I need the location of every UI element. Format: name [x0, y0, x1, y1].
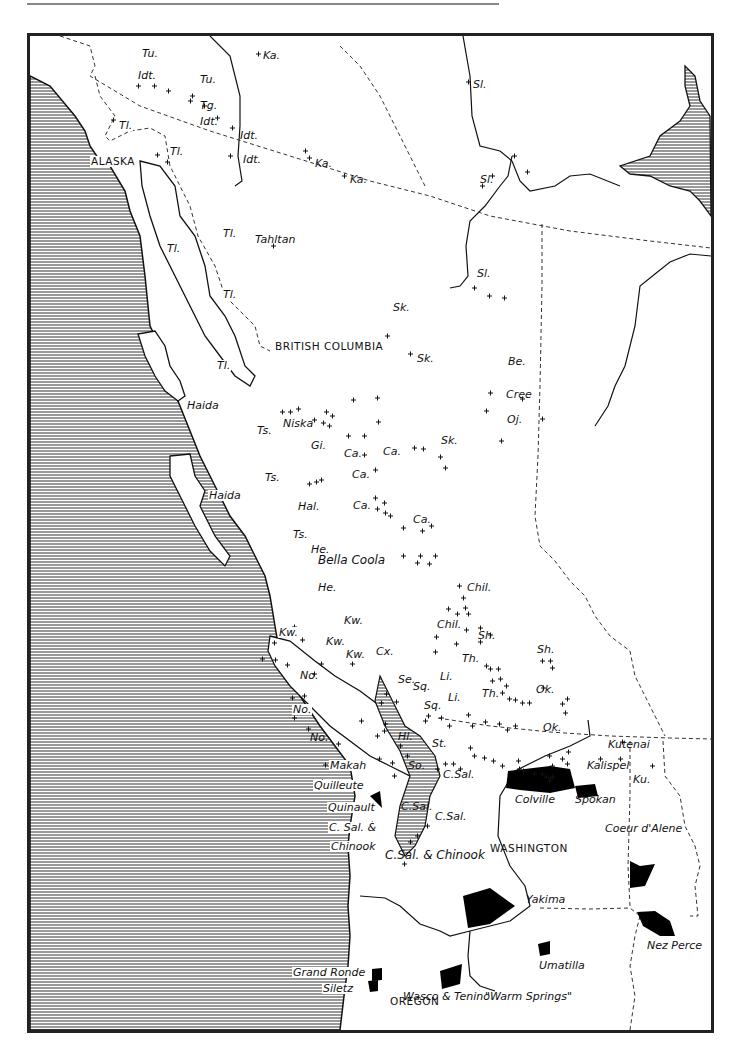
tribe-label: Sh.: [478, 630, 495, 641]
tribe-label: Sl.: [473, 79, 487, 90]
tribe-label: Ka.: [263, 50, 280, 61]
tribe-label: Niska: [283, 418, 313, 429]
reservation-umatilla: [538, 941, 550, 956]
tribe-label: Haida: [186, 400, 220, 411]
tribe-label: Sq.: [424, 700, 441, 711]
region-label-alaska: ALASKA: [90, 156, 136, 167]
tribe-label: Yakima: [526, 894, 565, 905]
tribe-label: Sh.: [537, 644, 554, 655]
tribe-label: Be.: [508, 356, 526, 367]
tribe-label: Tl.: [222, 289, 237, 300]
tribe-label: Nez Perce: [647, 940, 702, 951]
tribe-label: No.: [300, 670, 318, 681]
tribe-label: Th.: [462, 653, 479, 664]
tribe-label: Sk.: [441, 435, 458, 446]
tribe-label: Ts.: [292, 529, 309, 540]
tribe-label: Li.: [440, 671, 453, 682]
tribe-label: Wasco & Tenino: [403, 991, 490, 1002]
page-header-rule: [27, 3, 499, 5]
tribe-label: C.Sal.: [435, 811, 466, 822]
tribe-label: Ts.: [256, 425, 273, 436]
tribe-label: Siletz: [322, 983, 354, 994]
tribe-label: Spokan: [575, 794, 616, 805]
river-liard: [463, 36, 620, 191]
tribe-label: Ok.: [543, 722, 562, 733]
tribe-label: C.Sal.: [401, 801, 432, 812]
tribe-label: Tu.: [142, 48, 158, 59]
tribe-label: Idt.: [200, 116, 218, 127]
tribe-label: Chil.: [467, 582, 491, 593]
tribe-label: Idt.: [240, 130, 258, 141]
tribe-label: Quinault: [327, 802, 376, 813]
tribe-label: Ca.: [344, 448, 362, 459]
river-deschutes: [468, 931, 495, 991]
tribe-label: Sk.: [417, 353, 434, 364]
tribe-label: Ca.: [383, 446, 401, 457]
tribe-label: He.: [318, 582, 337, 593]
border-bc-alberta: [535, 224, 665, 736]
reservation-coeur-dalene: [630, 861, 655, 888]
tribe-label: Gi.: [311, 440, 326, 451]
tribe-label: Tl.: [166, 243, 181, 254]
tribe-label: Sq.: [413, 681, 430, 692]
border-or-id: [630, 916, 640, 1030]
northern-lake: [620, 66, 711, 216]
tribe-label: Oj.: [507, 414, 522, 425]
tribe-label: Li.: [448, 692, 461, 703]
tribe-label: Tl.: [216, 360, 231, 371]
region-label-washington: WASHINGTON: [490, 843, 568, 854]
tribe-label: Chil.: [437, 619, 461, 630]
tribe-label: C. Sal. &: [328, 822, 377, 833]
tribe-label: Kalispel: [587, 760, 629, 771]
tribe-label: Kw.: [346, 649, 365, 660]
tribe-label: Tl.: [170, 146, 183, 157]
reservation-warm-springs: [440, 964, 462, 989]
reservation-grand-ronde: [372, 968, 382, 981]
tribe-label: Sl.: [480, 174, 494, 185]
tribe-label: Tg.: [200, 100, 217, 111]
tribe-label: Hal.: [298, 501, 320, 512]
reservation-nez-perce: [637, 911, 675, 936]
tribe-label: Tu.: [200, 74, 216, 85]
tribe-label: Ca.: [353, 500, 371, 511]
tribe-label: Cx.: [376, 646, 394, 657]
tribe-label: Ku.: [633, 774, 650, 785]
tribe-label: Tahltan: [255, 234, 295, 245]
border-ka-region: [340, 46, 425, 186]
tribe-label: Ka.: [315, 158, 332, 169]
tribe-label: Idt.: [243, 154, 261, 165]
reservation-siletz: [368, 980, 378, 992]
tribe-label: Chinook: [330, 841, 377, 852]
tribe-label: So.: [408, 760, 425, 771]
tribe-label: Sl.: [477, 268, 491, 279]
border-us-canada: [438, 718, 711, 739]
tribe-label: Ok.: [536, 684, 555, 695]
tribe-label: Tl.: [118, 120, 133, 131]
tribe-label: Ca.: [413, 514, 431, 525]
tribe-label: No.: [292, 704, 312, 715]
tribe-label: Kw.: [344, 615, 363, 626]
tribe-label: "Warm Springs": [485, 991, 572, 1002]
tribe-label: Makah: [329, 760, 367, 771]
tribe-label: C.Sal. & Chinook: [385, 849, 485, 861]
tribe-label: Ca.: [352, 469, 370, 480]
tribe-label: No.: [310, 732, 328, 743]
tribe-label: Th.: [482, 688, 499, 699]
tribe-label: Kw.: [278, 627, 299, 638]
tribe-label: Grand Ronde: [292, 967, 366, 978]
tribe-label: Colville: [515, 794, 555, 805]
tribe-label: Kutenai: [608, 739, 650, 750]
tribe-label: Ka.: [350, 174, 367, 185]
tribe-label: Kw.: [326, 636, 345, 647]
tribe-label: Bella Coola: [318, 554, 385, 566]
border-wa-or: [540, 908, 640, 916]
tribe-label: Ts.: [264, 472, 281, 483]
tribe-label: St.: [432, 738, 447, 749]
tribe-label: Tl.: [222, 228, 237, 239]
river-athabasca: [595, 254, 711, 426]
tribe-label: Sk.: [393, 302, 410, 313]
tribe-label: Umatilla: [539, 960, 585, 971]
tribe-label: Quilleute: [313, 780, 365, 791]
map-frame: ALASKA BRITISH COLUMBIA WASHINGTON OREGO…: [27, 33, 714, 1033]
tribe-label: Hl.: [398, 731, 413, 742]
